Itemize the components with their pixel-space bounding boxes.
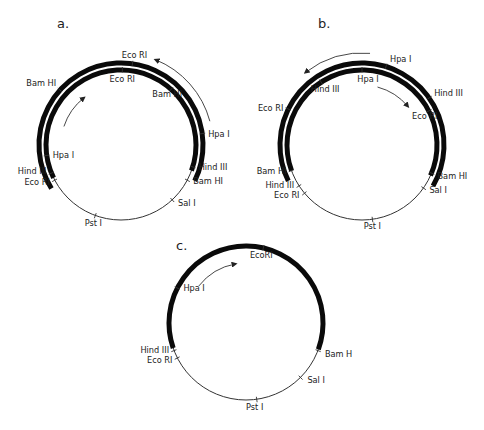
restriction-site-label: Bam HI: [438, 171, 468, 181]
restriction-site-label: Eco RI: [258, 103, 283, 113]
restriction-site-label: Bam HI: [257, 166, 287, 176]
restriction-site-label: Pst I: [246, 402, 263, 412]
restriction-site-label: Hind III: [18, 166, 47, 176]
restriction-site-label: Eco RI: [110, 74, 135, 84]
insert-arc: [169, 246, 323, 349]
restriction-site-label: Bam HI: [26, 78, 56, 88]
restriction-site-label: Eco RI: [412, 111, 437, 121]
restriction-site-label: Hind III: [311, 84, 340, 94]
restriction-site-label: Pst I: [364, 221, 381, 231]
restriction-site-label: Hind III: [434, 88, 463, 98]
panel-b-letter: b.: [318, 16, 330, 31]
insert-arc: [287, 70, 437, 175]
direction-arrow-icon: [378, 87, 408, 106]
restriction-site-label: Bam H: [325, 349, 352, 359]
restriction-site-label: Sal I: [307, 375, 325, 385]
insert-arc: [46, 70, 196, 178]
panel-c-letter: c.: [176, 238, 187, 253]
restriction-site-label: Bam HI: [193, 176, 223, 186]
restriction-site-label: Hpa I: [53, 150, 74, 160]
restriction-site-label: Pst I: [85, 218, 102, 228]
restriction-site-label: Sal I: [429, 185, 447, 195]
restriction-site-label: Hind III: [140, 345, 169, 355]
restriction-site-label: Eco RI: [122, 50, 147, 60]
restriction-site-label: Hind III: [199, 162, 228, 172]
restriction-site-label: Hpa I: [208, 129, 229, 139]
panel-a: a. Eco RIBam HIHpa IEco RIBam HIHpa IHin…: [18, 16, 230, 228]
restriction-site-label: Sal I: [178, 198, 196, 208]
restriction-site-label: Eco RI: [24, 177, 49, 187]
panel-b: b. Hpa IHind IIIEco RIHpa IHind IIIEco R…: [257, 16, 468, 231]
restriction-site-label: Hind III: [265, 180, 294, 190]
direction-arrow-icon: [64, 98, 84, 127]
restriction-site-label: Bam HI: [152, 89, 182, 99]
restriction-site-label: Eco RI: [274, 190, 299, 200]
plasmid-restriction-map-figure: a. Eco RIBam HIHpa IEco RIBam HIHpa IHin…: [0, 0, 484, 430]
panel-a-letter: a.: [57, 16, 69, 31]
restriction-site-label: EcoRI: [250, 250, 273, 260]
restriction-site-label: Hpa I: [357, 74, 378, 84]
restriction-site-label: Hpa I: [183, 283, 204, 293]
panel-c: c. EcoRIHpa IHind IIIEco RIBam HSal IPst…: [140, 238, 352, 412]
restriction-site-label: Hpa I: [390, 54, 411, 64]
restriction-site-label: Eco RI: [147, 355, 172, 365]
